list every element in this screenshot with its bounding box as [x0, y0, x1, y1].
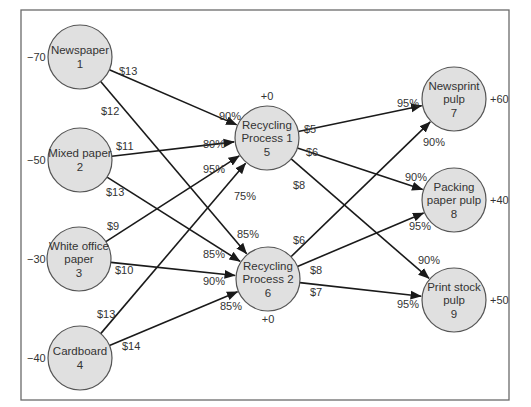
node-number: 7 [451, 107, 457, 119]
edge-yield-label: 90% [203, 275, 225, 287]
edge-cost-label: $12 [101, 105, 119, 117]
node-supply-label: +40 [490, 194, 509, 206]
node-supply-label: +50 [490, 294, 509, 306]
edge-6-to-8 [297, 213, 423, 267]
edge-cost-label: $8 [293, 179, 305, 191]
node-label: Print stock [427, 281, 481, 293]
edge-cost-label: $9 [107, 220, 119, 232]
node-label: Packing [434, 181, 475, 193]
node-label: Mixed paper [48, 147, 111, 159]
node-supply-label: +0 [262, 313, 275, 325]
node-label: paper [64, 253, 94, 265]
edge-cost-label: $10 [115, 264, 133, 276]
edge-yield-label: 90% [423, 136, 445, 148]
node-number: 4 [77, 359, 84, 371]
edge-cost-label: $6 [306, 146, 318, 158]
node-number: 9 [451, 308, 457, 320]
node-label: pulp [443, 294, 465, 306]
edge-cost-label: $14 [122, 340, 140, 352]
edge-yield-label: 90% [219, 110, 241, 122]
node-6: RecyclingProcess 26 [236, 247, 300, 311]
node-supply-label: +60 [490, 93, 509, 105]
node-label: Process 1 [241, 132, 292, 144]
node-5: RecyclingProcess 15 [235, 106, 299, 170]
node-9: Print stockpulp9 [422, 268, 486, 332]
node-label: paper pulp [427, 194, 481, 206]
node-supply-label: +0 [261, 90, 274, 102]
node-label: Recycling [243, 260, 293, 272]
edge-yield-label: 90% [405, 171, 427, 183]
edge-1-to-5 [109, 70, 236, 125]
edge-yield-label: 85% [203, 248, 225, 260]
node-8: Packingpaper pulp8 [422, 168, 486, 232]
edge-5-to-7 [298, 106, 421, 132]
edge-cost-label: $8 [310, 264, 322, 276]
node-number: 8 [451, 208, 457, 220]
node-label: White office [49, 240, 109, 252]
node-supply-label: −40 [27, 352, 46, 364]
node-label: Cardboard [53, 345, 107, 357]
node-number: 1 [77, 58, 83, 70]
edge-yield-label: 95% [397, 298, 419, 310]
edge-yield-label: 95% [409, 220, 431, 232]
edge-cost-label: $13 [119, 65, 137, 77]
network-diagram: Newspaper1Mixed paper2White officepaper3… [0, 0, 531, 407]
edge-cost-label: $6 [293, 234, 305, 246]
edge-cost-label: $5 [304, 123, 316, 135]
node-label: Recycling [242, 119, 292, 131]
node-label: pulp [443, 93, 465, 105]
edge-yield-label: 95% [203, 163, 225, 175]
node-1: Newspaper1 [48, 25, 112, 89]
edge-yield-label: 90% [418, 254, 440, 266]
node-label: Newsprint [428, 80, 480, 92]
edge-cost-label: $13 [97, 308, 115, 320]
node-label: Newspaper [51, 44, 109, 56]
node-number: 5 [264, 146, 270, 158]
node-supply-label: −50 [27, 154, 46, 166]
node-7: Newsprintpulp7 [422, 67, 486, 131]
node-4: Cardboard4 [48, 326, 112, 390]
edge-cost-label: $7 [310, 286, 322, 298]
edge-yield-label: 75% [234, 190, 256, 202]
edge-yield-label: 85% [237, 228, 259, 240]
node-number: 2 [77, 161, 83, 173]
edge-cost-label: $11 [116, 140, 134, 152]
edge-6-to-7 [291, 122, 430, 257]
node-3: White officepaper3 [47, 227, 111, 291]
node-number: 3 [76, 267, 82, 279]
node-2: Mixed paper2 [48, 128, 112, 192]
nodes-layer: Newspaper1Mixed paper2White officepaper3… [47, 25, 486, 390]
node-supply-label: −30 [27, 253, 46, 265]
node-supply-label: −70 [27, 51, 46, 63]
edge-cost-label: $13 [106, 186, 124, 198]
node-label: Process 2 [242, 273, 293, 285]
edge-yield-label: 80% [203, 138, 225, 150]
edge-yield-label: 95% [397, 97, 419, 109]
edge-yield-label: 85% [220, 300, 242, 312]
node-number: 6 [265, 287, 271, 299]
